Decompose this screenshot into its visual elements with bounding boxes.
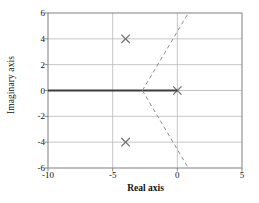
- x-tick-label: 5: [240, 170, 245, 180]
- x-axis-label: Real axis: [48, 183, 243, 193]
- y-tick-label: -6: [25, 163, 45, 173]
- x-tick-label: 0: [175, 170, 180, 180]
- y-tick-label: 6: [25, 8, 45, 18]
- y-tick-label: -4: [25, 137, 45, 147]
- y-tick-label: -2: [25, 111, 45, 121]
- root-locus-figure: Imaginary axis Real axis -10-505-6-4-202…: [0, 0, 259, 203]
- y-tick-label: 4: [25, 34, 45, 44]
- y-tick-label: 0: [25, 86, 45, 96]
- locus-line: [142, 13, 188, 91]
- x-tick-label: -5: [109, 170, 117, 180]
- y-tick-label: 2: [25, 60, 45, 70]
- locus-line: [142, 91, 188, 169]
